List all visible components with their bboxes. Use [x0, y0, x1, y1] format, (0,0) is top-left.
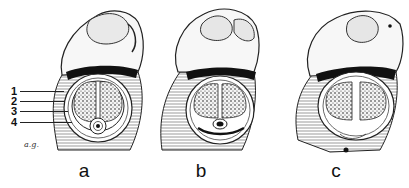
leader-line-4 — [20, 122, 72, 123]
leader-line-2 — [20, 101, 64, 102]
callout-4: 4 — [11, 117, 17, 128]
panel-b-illustration — [158, 0, 263, 160]
panel-label-b: b — [191, 160, 211, 182]
panel-label-a: a — [74, 160, 94, 182]
panel-label-c: c — [326, 160, 346, 182]
panel-c-illustration — [290, 0, 405, 160]
leader-line-1 — [20, 91, 64, 92]
artist-signature: a.g. — [24, 140, 39, 149]
leader-line-3 — [20, 111, 68, 112]
panel-a-illustration — [50, 0, 150, 160]
